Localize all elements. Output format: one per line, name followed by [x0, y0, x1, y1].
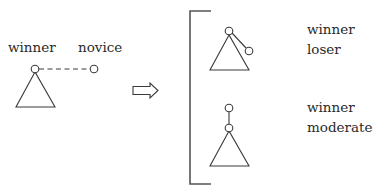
label-loser: loser	[307, 41, 341, 57]
winner-subtree-triangle	[210, 35, 249, 70]
winner-subtree-triangle	[210, 131, 249, 166]
loser-child-node	[245, 47, 253, 55]
left-bracket	[190, 11, 211, 184]
moderate-root-node	[225, 104, 233, 112]
outcome-winner-moderate: winner moderate	[210, 99, 372, 166]
label-moderate: moderate	[307, 119, 372, 135]
winner-root-node	[225, 27, 233, 35]
union-diagram: winner novice winner loser winner modera…	[0, 0, 380, 194]
hollow-right-arrow-icon	[133, 83, 158, 98]
outcome-winner-loser: winner loser	[210, 21, 355, 70]
label-winner: winner	[8, 39, 56, 55]
novice-node	[90, 65, 98, 73]
winner-node	[31, 65, 39, 73]
winner-node	[225, 124, 233, 132]
before-state: winner novice	[8, 39, 122, 107]
label-winner: winner	[307, 99, 355, 115]
child-edge	[232, 33, 246, 48]
label-winner: winner	[307, 21, 355, 37]
label-novice: novice	[78, 39, 122, 55]
winner-subtree-triangle	[16, 72, 55, 107]
